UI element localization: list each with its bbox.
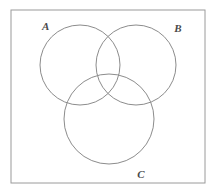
circle-set-b xyxy=(96,25,176,105)
venn-diagram-canvas: A B C xyxy=(0,0,216,195)
circle-set-c xyxy=(64,74,154,164)
venn-diagram-figure: A B C xyxy=(0,0,216,195)
set-label-c: C xyxy=(137,168,145,180)
set-label-a: A xyxy=(41,20,49,32)
set-label-b: B xyxy=(173,22,181,34)
